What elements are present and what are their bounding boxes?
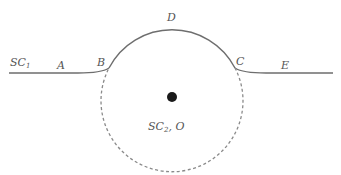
label-d: D bbox=[167, 12, 176, 23]
label-b: B bbox=[97, 57, 105, 68]
label-sc1: SC1 bbox=[10, 57, 30, 70]
label-sc1-text: SC bbox=[10, 56, 26, 69]
diagram-canvas bbox=[0, 0, 341, 175]
label-o-text: , O bbox=[168, 120, 184, 133]
arc-upper-solid bbox=[109, 30, 235, 68]
label-sc2-text: SC bbox=[148, 120, 164, 133]
label-sc1-subscript: 1 bbox=[26, 62, 30, 70]
label-a: A bbox=[57, 60, 65, 71]
label-e: E bbox=[281, 60, 289, 71]
center-dot-o bbox=[167, 92, 177, 102]
label-sc2-o: SC2, O bbox=[148, 121, 184, 134]
label-c: C bbox=[236, 56, 244, 67]
